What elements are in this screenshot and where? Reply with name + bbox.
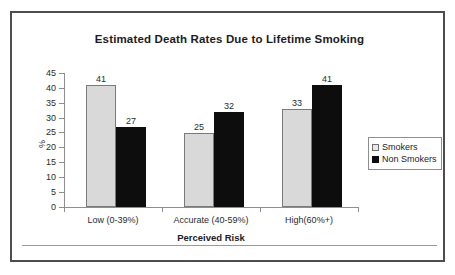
y-tick-label-15: 15 — [12, 158, 56, 167]
bar-value-nonsmokers-accurate: 32 — [214, 102, 244, 111]
y-tick-label-10: 10 — [12, 173, 56, 182]
legend-swatch-non-smokers-icon — [372, 156, 379, 163]
y-tick-label-5: 5 — [12, 188, 56, 197]
bar-smokers-low[interactable] — [86, 85, 116, 207]
bar-value-smokers-low: 41 — [86, 75, 116, 84]
bar-smokers-accurate[interactable] — [184, 133, 214, 207]
y-tick-label-5-wrap: 5 — [12, 188, 56, 197]
y-tick-label-0-wrap: 0 — [12, 203, 56, 212]
legend-item-non-smokers[interactable]: Non Smokers — [372, 154, 437, 165]
y-tick-label-15-wrap: 15 — [12, 158, 56, 167]
bar-value-smokers-accurate: 25 — [184, 123, 214, 132]
y-tick-label-45-wrap: 45 — [12, 69, 56, 78]
chart-legend: Smokers Non Smokers — [368, 137, 442, 170]
screenshot-root: Estimated Death Rates Due to Lifetime Sm… — [0, 0, 455, 275]
bar-nonsmokers-low[interactable] — [116, 127, 146, 207]
x-axis-title: Perceived Risk — [64, 232, 358, 243]
legend-swatch-smokers-icon — [372, 144, 379, 151]
bar-nonsmokers-accurate[interactable] — [214, 112, 244, 207]
y-tick-label-20: 20 — [12, 143, 56, 152]
x-tick-1 — [162, 207, 163, 212]
y-tick-label-40-wrap: 40 — [12, 84, 56, 93]
legend-label-smokers: Smokers — [382, 143, 418, 152]
x-label-high: High(60%+) — [260, 215, 358, 226]
bottom-divider — [22, 245, 437, 246]
x-tick-end — [358, 207, 359, 212]
x-tick-start — [64, 207, 65, 212]
y-tick-label-40: 40 — [12, 84, 56, 93]
bar-smokers-high[interactable] — [282, 109, 312, 207]
y-tick-label-25-wrap: 25 — [12, 128, 56, 137]
x-label-accurate: Accurate (40-59%) — [162, 215, 260, 226]
bar-value-nonsmokers-low: 27 — [116, 117, 146, 126]
y-tick-label-45: 45 — [12, 69, 56, 78]
bar-nonsmokers-high[interactable] — [312, 85, 342, 207]
x-label-low: Low (0-39%) — [64, 215, 162, 226]
plot-area: 41 27 25 32 33 41 — [64, 73, 358, 207]
bar-value-smokers-high: 33 — [282, 99, 312, 108]
x-axis-line — [64, 207, 358, 208]
y-tick-label-20-wrap: 20 — [12, 143, 56, 152]
y-tick-label-10-wrap: 10 — [12, 173, 56, 182]
y-tick-label-25: 25 — [12, 128, 56, 137]
x-tick-2 — [260, 207, 261, 212]
legend-item-smokers[interactable]: Smokers — [372, 142, 437, 153]
y-tick-label-35-wrap: 35 — [12, 99, 56, 108]
y-tick-label-0: 0 — [12, 203, 56, 212]
y-tick-label-30-wrap: 30 — [12, 114, 56, 123]
chart-title: Estimated Death Rates Due to Lifetime Sm… — [12, 33, 447, 45]
y-tick-label-35: 35 — [12, 99, 56, 108]
bar-value-nonsmokers-high: 41 — [312, 75, 342, 84]
legend-label-non-smokers: Non Smokers — [382, 155, 437, 164]
chart-frame: Estimated Death Rates Due to Lifetime Sm… — [10, 11, 445, 262]
y-tick-label-30: 30 — [12, 114, 56, 123]
